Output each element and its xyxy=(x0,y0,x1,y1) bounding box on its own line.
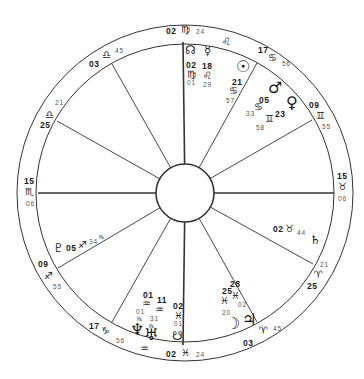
asc-sign-scorpio: ♏ xyxy=(25,187,34,197)
sun-sign: ♋ xyxy=(229,86,238,96)
venus-sign: ♊ xyxy=(265,114,274,124)
mercury-glyph: ☿ xyxy=(204,45,211,57)
cusp11-sign-libra: ♎ xyxy=(102,50,111,60)
sun-glyph: ☉ xyxy=(236,59,250,75)
saturn-minutes: 44 xyxy=(297,230,306,237)
saturn-glyph: ♄ xyxy=(310,234,321,246)
neptune-minutes: 01 xyxy=(136,309,145,316)
cusp2-degree: 09 xyxy=(38,260,48,269)
mc-minutes: 24 xyxy=(196,29,205,36)
cusp12-sign-libra: ♎ xyxy=(45,110,54,120)
jupiter-glyph: ♃ xyxy=(242,312,256,328)
venus-minutes: 58 xyxy=(256,125,265,132)
moon-glyph: ☽ xyxy=(226,316,240,332)
neptune-glyph: ♆ xyxy=(130,322,144,338)
uranus-glyph: ♅ xyxy=(144,327,158,343)
hub-circle xyxy=(156,164,214,222)
intercepted-aquarius-sign: ♒ xyxy=(140,344,149,354)
intercepted-leo-sign: ♌ xyxy=(222,37,231,47)
cusp3-degree: 17 xyxy=(89,322,99,331)
pluto-minutes: 34 xyxy=(89,239,98,246)
dsc-minutes: 06 xyxy=(338,196,347,203)
uranus-minutes: 31 xyxy=(150,316,159,323)
ic-minutes: 24 xyxy=(196,352,205,359)
cusp11-minutes: 45 xyxy=(115,48,124,55)
cusp8-sign-gemini: ♊ xyxy=(316,111,325,121)
cusp3-minutes: 56 xyxy=(116,338,125,345)
ic-degree: 02 xyxy=(166,350,176,359)
saturn-degree: 02 xyxy=(273,225,283,234)
uranus-sign: ♒ xyxy=(155,305,164,315)
saturn-sign: ♉ xyxy=(285,224,294,234)
asc-minutes: 06 xyxy=(26,201,35,208)
dsc-sign-taurus: ♉ xyxy=(338,182,347,192)
jupiter-sign: ♓ xyxy=(231,291,240,301)
mercury-minutes: 29 xyxy=(203,82,212,89)
cusp11-degree: 03 xyxy=(89,60,99,69)
cusp2-minutes: 55 xyxy=(53,284,62,291)
pluto-sign: ♐ xyxy=(78,240,87,250)
mc-sign-virgo: ♍ xyxy=(181,25,190,35)
cusp5-minutes: 45 xyxy=(273,326,282,333)
north-node-minutes: 01 xyxy=(187,80,196,87)
pluto-glyph: ♇ xyxy=(53,242,64,254)
venus-glyph: ♀ xyxy=(286,95,298,111)
sun-minutes: 57 xyxy=(226,98,235,105)
pluto-degree: 05 xyxy=(66,244,76,253)
cusp12-minutes: 21 xyxy=(55,100,64,107)
jupiter-minutes: 02 xyxy=(238,302,247,309)
pluto-retrograde: ℞ xyxy=(99,234,104,240)
moon-sign: ♓ xyxy=(220,296,229,306)
cusp12-degree: 25 xyxy=(40,121,50,130)
mc-degree: 02 xyxy=(166,27,176,36)
asc-degree: 15 xyxy=(24,177,34,186)
cusp8-degree: 09 xyxy=(309,101,319,110)
cusp9-degree: 17 xyxy=(258,46,268,55)
ic-sign-pisces: ♓ xyxy=(181,348,190,358)
cusp9-sign-cancer: ♋ xyxy=(268,53,277,63)
cusp6-minutes: 21 xyxy=(320,262,329,269)
mercury-sign: ♌ xyxy=(203,71,212,81)
jupiter-degree: 28 xyxy=(230,280,240,289)
cusp5-degree: 03 xyxy=(243,339,253,348)
south-node-minutes: 01 xyxy=(174,321,183,328)
cusp8-minutes: 55 xyxy=(322,124,331,131)
cusp2-sign-sagittarius: ♐ xyxy=(44,271,53,281)
cusp9-minutes: 56 xyxy=(282,61,291,68)
mars-sign: ♋ xyxy=(254,102,263,112)
mars-minutes: 33 xyxy=(246,111,255,118)
mars-glyph: ♂ xyxy=(268,80,282,96)
cusp6-sign-aries: ♈ xyxy=(314,270,323,280)
south-node-glyph: ☋ xyxy=(172,330,183,342)
north-node-glyph: ☊ xyxy=(185,44,196,56)
cusp5-sign-aries: ♈ xyxy=(259,326,268,336)
dsc-degree: 15 xyxy=(337,172,347,181)
venus-degree: 23 xyxy=(275,110,285,119)
cusp6-degree: 25 xyxy=(307,282,317,291)
cusp3-sign-capricorn: ♑ xyxy=(101,326,110,336)
